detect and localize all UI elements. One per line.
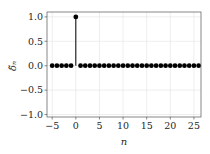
y-tick-label: 0.5 <box>28 36 43 47</box>
stem-marker <box>149 63 154 68</box>
stem-marker <box>106 63 111 68</box>
stem-marker <box>121 63 126 68</box>
stem-marker <box>182 63 187 68</box>
stem-marker <box>78 63 83 68</box>
stem-marker <box>92 63 97 68</box>
stem-marker <box>173 63 178 68</box>
x-axis-label: n <box>121 136 127 147</box>
stem-marker <box>102 63 107 68</box>
stem-marker <box>163 63 168 68</box>
stem-marker <box>64 63 69 68</box>
stem-marker <box>73 14 78 19</box>
y-tick-label: −1.0 <box>20 109 43 120</box>
y-axis-ticks: 1.00.50.0−0.5−1.0 <box>20 11 47 120</box>
stem-marker <box>154 63 159 68</box>
stem-marker <box>135 63 140 68</box>
stem-marker <box>116 63 121 68</box>
stem-plot: −50510152025 1.00.50.0−0.5−1.0 n δ̃ₙ <box>0 0 210 154</box>
x-tick-label: 20 <box>164 120 176 131</box>
x-tick-label: −5 <box>45 120 59 131</box>
stem-marker <box>177 63 182 68</box>
stem-marker <box>168 63 173 68</box>
stem-marker <box>111 63 116 68</box>
stem-marker <box>192 63 197 68</box>
stem-marker <box>97 63 102 68</box>
stem-marker <box>130 63 135 68</box>
stem-marker <box>88 63 93 68</box>
stem-marker <box>83 63 88 68</box>
x-tick-label: 25 <box>188 120 200 131</box>
stem-marker <box>59 63 64 68</box>
stem-marker <box>144 63 149 68</box>
y-tick-label: 0.0 <box>28 60 43 71</box>
x-tick-label: 0 <box>73 120 79 131</box>
x-axis-ticks: −50510152025 <box>45 117 200 131</box>
y-tick-label: −0.5 <box>20 84 43 95</box>
stem-marker <box>187 63 192 68</box>
stem-marker <box>196 63 201 68</box>
x-tick-label: 5 <box>96 120 102 131</box>
y-axis-label: δ̃ₙ <box>7 61 18 71</box>
stem-marker <box>140 63 145 68</box>
stem-marker <box>69 63 74 68</box>
stem-marker <box>125 63 130 68</box>
y-tick-label: 1.0 <box>28 11 43 22</box>
stem-marker <box>55 63 60 68</box>
x-tick-label: 10 <box>117 120 129 131</box>
x-tick-label: 15 <box>141 120 153 131</box>
stem-marker <box>158 63 163 68</box>
stem-marker <box>50 63 55 68</box>
